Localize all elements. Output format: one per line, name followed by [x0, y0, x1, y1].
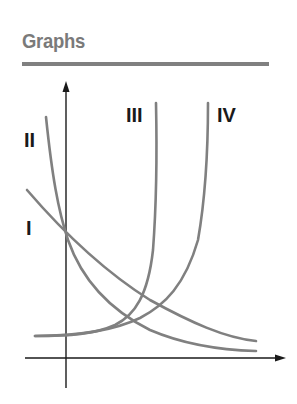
label-II: II — [24, 129, 35, 151]
x-axis-arrow-icon — [275, 355, 286, 362]
label-I: I — [26, 217, 32, 239]
graph-figure: II I III IV — [0, 0, 297, 404]
label-IV: IV — [217, 104, 237, 126]
curve-II — [46, 117, 256, 351]
label-III: III — [126, 104, 143, 126]
y-axis-arrow-icon — [63, 81, 70, 92]
axes — [25, 90, 278, 388]
